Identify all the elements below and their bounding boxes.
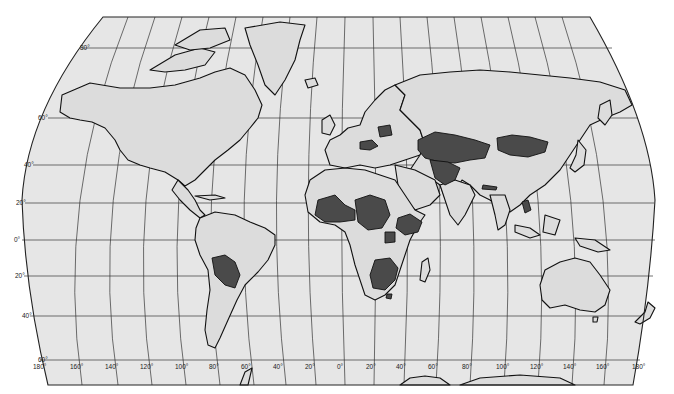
region-south-sudan bbox=[385, 232, 395, 243]
lon-label: 20° bbox=[366, 363, 376, 370]
lon-label: 80° bbox=[209, 363, 219, 370]
lon-label: 100° bbox=[496, 363, 510, 370]
lon-label: 140° bbox=[105, 363, 119, 370]
lat-label: 80° bbox=[80, 44, 90, 51]
world-map: 80° 60° 40° 20° 0° 20° 40° 60° 180° 160°… bbox=[0, 0, 674, 394]
lon-label: 0° bbox=[337, 363, 344, 370]
lat-label: 20° bbox=[16, 199, 26, 206]
lon-label: 140° bbox=[563, 363, 577, 370]
map-canvas: 80° 60° 40° 20° 0° 20° 40° 60° 180° 160°… bbox=[0, 0, 674, 394]
lon-label: 60° bbox=[241, 363, 251, 370]
lon-label: 40° bbox=[396, 363, 406, 370]
lon-label: 180° bbox=[632, 363, 646, 370]
lon-label: 120° bbox=[140, 363, 154, 370]
lat-label: 60° bbox=[38, 114, 48, 121]
lat-label: 40° bbox=[22, 312, 32, 319]
region-belarus bbox=[378, 125, 392, 137]
lat-label: 60° bbox=[38, 356, 48, 363]
lon-label: 160° bbox=[596, 363, 610, 370]
lon-label: 180° bbox=[33, 363, 47, 370]
lat-label: 20° bbox=[15, 272, 25, 279]
lon-label: 40° bbox=[273, 363, 283, 370]
lon-label: 100° bbox=[175, 363, 189, 370]
lon-label: 160° bbox=[70, 363, 84, 370]
lon-label: 80° bbox=[462, 363, 472, 370]
lon-label: 20° bbox=[305, 363, 315, 370]
lon-label: 60° bbox=[428, 363, 438, 370]
lon-label: 120° bbox=[530, 363, 544, 370]
lat-label: 40° bbox=[24, 161, 34, 168]
lat-label: 0° bbox=[14, 236, 21, 243]
region-lesotho bbox=[386, 294, 392, 299]
